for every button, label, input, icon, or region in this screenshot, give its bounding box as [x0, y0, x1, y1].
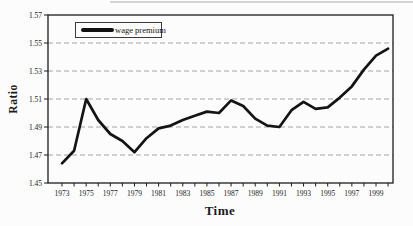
x-tick-label: 1983 [175, 189, 190, 198]
x-tick-label: 1995 [320, 189, 335, 198]
x-tick-label: 1999 [369, 189, 384, 198]
x-tick-label: 1997 [344, 189, 359, 198]
x-tick-label: 1989 [248, 189, 263, 198]
legend-box: wage premium [75, 22, 162, 38]
y-axis-title: Ratio [7, 84, 19, 113]
x-tick-label: 1987 [224, 189, 239, 198]
x-tick-label: 1977 [103, 189, 118, 198]
chart-plot-area: 1.451.471.491.511.531.551.57197319751977… [0, 0, 413, 226]
wage-premium-figure: 1.451.471.491.511.531.551.57197319751977… [0, 0, 413, 226]
x-tick-label: 1981 [151, 189, 166, 198]
series-line-wage-premium [62, 49, 388, 164]
y-tick-label: 1.55 [29, 39, 42, 48]
x-tick-label: 1993 [296, 189, 311, 198]
legend-label: wage premium [115, 25, 166, 35]
x-tick-label: 1975 [79, 189, 94, 198]
legend-line-sample [81, 28, 114, 32]
y-tick-label: 1.53 [29, 67, 42, 76]
x-tick-label: 1973 [55, 189, 70, 198]
y-tick-label: 1.51 [29, 95, 42, 104]
x-tick-label: 1991 [272, 189, 287, 198]
y-tick-label: 1.45 [29, 179, 42, 188]
y-tick-label: 1.49 [29, 123, 42, 132]
x-tick-label: 1979 [127, 189, 142, 198]
y-tick-label: 1.57 [29, 11, 42, 20]
x-tick-label: 1985 [199, 189, 214, 198]
y-tick-label: 1.47 [29, 151, 42, 160]
x-axis-title: Time [205, 203, 236, 219]
